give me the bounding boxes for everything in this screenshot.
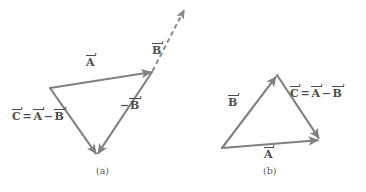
panel-a-vectors: [50, 10, 184, 153]
panel-b-eq-c-symbol: C: [290, 85, 299, 99]
panel-a-vector-a-arrow: [50, 72, 151, 88]
panel-a-eq-equals: =: [21, 111, 33, 122]
panel-a-label-a-symbol: A: [86, 54, 95, 68]
panel-a-caption: (a): [96, 165, 109, 176]
panel-b-caption: (b): [263, 165, 277, 176]
panel-a-eq-c-symbol: C: [12, 108, 21, 122]
panel-a-label-vector-b: B: [152, 42, 162, 56]
panel-b-label-a-symbol: A: [264, 146, 273, 160]
panel-a-label-b-symbol: B: [152, 42, 162, 56]
panel-a-vector-minus-b-arrow: [98, 72, 152, 153]
panel-a-label-minus-b-symbol: B: [130, 97, 140, 111]
panel-b-label-vector-b: B: [228, 94, 238, 108]
panel-a-label-vector-minus-b: −B: [120, 97, 139, 111]
panel-b-label-vector-a: A: [264, 146, 273, 160]
panel-a-label-minus-sign: −: [120, 100, 130, 111]
panel-b-label-b-symbol: B: [228, 94, 238, 108]
panel-a-eq-minus: −: [42, 111, 54, 122]
panel-b-vector-b-arrow: [222, 77, 276, 148]
panel-b-label-equation-c: C=A−B: [290, 85, 342, 99]
panel-a-label-vector-a: A: [86, 54, 95, 68]
panel-a-eq-a-symbol: A: [33, 108, 42, 122]
vector-subtraction-figure: A B −B C=A−B (a) B A C=A−B (b): [0, 0, 366, 192]
panel-b-eq-equals: =: [299, 88, 311, 99]
panel-a-vector-b-dashed-arrow: [153, 10, 185, 71]
panel-b-eq-a-symbol: A: [311, 85, 320, 99]
panel-a-eq-b-symbol: B: [55, 108, 65, 122]
panel-a-label-equation-c: C=A−B: [12, 108, 64, 122]
panel-b-eq-b-symbol: B: [333, 85, 343, 99]
panel-b-eq-minus: −: [320, 88, 332, 99]
